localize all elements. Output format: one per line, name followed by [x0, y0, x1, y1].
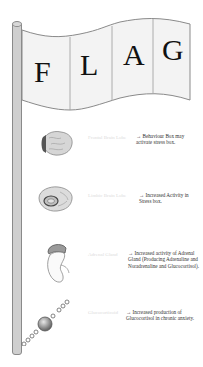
description-frontal: → Behaviour Box may activate stress box. [136, 133, 200, 146]
glucocorticoid-molecule-icon [20, 298, 70, 346]
flag-letter-l: L [80, 48, 98, 82]
label-glucocorticoid: Glucocorticoid [88, 310, 118, 315]
flag-letter-a: A [123, 38, 145, 72]
brain-frontal-icon [37, 128, 75, 158]
flag-pole-cap [12, 21, 22, 27]
description-adrenal: → Increased activity of Adrenal Gland (P… [128, 250, 200, 269]
label-limbic-brain-lobe: Limbic Brain Lobe [88, 193, 126, 198]
description-limbic: → Increased Activity in Stress box. [139, 192, 201, 205]
label-frontal-brain-lobe: Frontal Brain Lobe [88, 135, 126, 140]
label-adrenal-gland: Adrenal Gland [88, 252, 118, 257]
brain-limbic-icon [36, 184, 76, 214]
flag-letter-g: G [162, 33, 184, 67]
adrenal-gland-icon [44, 240, 74, 286]
flag-letter-f: F [34, 55, 51, 89]
description-glucocorticoid: → Increased production of Glucocortisol … [126, 309, 200, 322]
